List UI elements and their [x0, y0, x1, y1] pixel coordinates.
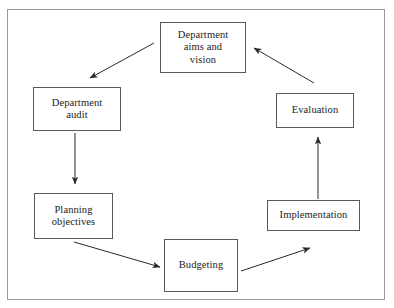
node-label: Evaluation — [289, 104, 342, 117]
node-budgeting[interactable]: Budgeting — [164, 239, 238, 292]
node-label: Implementation — [277, 209, 351, 222]
arrow-evaluation-to-aims — [254, 48, 314, 83]
node-planning-objectives[interactable]: Planning objectives — [34, 193, 113, 239]
node-department-aims-and-vision[interactable]: Department aims and vision — [160, 22, 246, 73]
arrow-planning-to-budgeting — [74, 242, 160, 267]
arrow-budgeting-to-implementation — [241, 248, 310, 271]
arrow-aims-to-audit — [90, 43, 154, 78]
node-evaluation[interactable]: Evaluation — [276, 93, 354, 128]
node-label: Budgeting — [176, 259, 227, 272]
node-label: Planning objectives — [49, 204, 99, 229]
node-label: Department aims and vision — [175, 29, 232, 67]
diagram-canvas: Department aims and vision Department au… — [0, 0, 394, 308]
node-department-audit[interactable]: Department audit — [33, 87, 121, 131]
node-implementation[interactable]: Implementation — [267, 200, 360, 231]
node-label: Department audit — [49, 97, 106, 122]
